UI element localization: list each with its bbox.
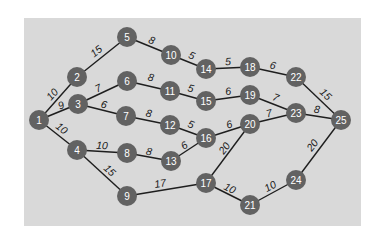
node-12: 12	[160, 115, 180, 135]
node-label: 7	[123, 111, 129, 122]
node-8: 8	[117, 143, 137, 163]
node-label: 6	[124, 76, 130, 87]
node-23: 23	[286, 103, 306, 123]
node-label: 4	[74, 145, 80, 156]
edge-weight-label: 8	[145, 145, 153, 158]
node-24: 24	[286, 170, 306, 190]
node-label: 23	[290, 108, 302, 119]
edge-weight-label: 8	[145, 107, 153, 120]
node-21: 21	[240, 195, 260, 215]
node-16: 16	[196, 128, 216, 148]
node-label: 10	[165, 50, 177, 61]
graph-canvas: 1091015761015888817555656620106771581020…	[0, 0, 380, 240]
node-6: 6	[117, 71, 137, 91]
node-9: 9	[117, 186, 137, 206]
node-label: 25	[335, 115, 347, 126]
edge-weight-label: 5	[187, 48, 197, 61]
node-label: 20	[244, 119, 256, 130]
edge-weight-label: 20	[215, 140, 232, 157]
edge-weight-label: 9	[56, 98, 66, 111]
node-label: 9	[124, 191, 130, 202]
node-13: 13	[161, 151, 181, 171]
edge-weight-label: 5	[187, 81, 196, 94]
node-label: 3	[75, 99, 81, 110]
edge-weight-label: 6	[269, 59, 277, 72]
edge-weight-label: 5	[186, 117, 196, 130]
node-14: 14	[196, 59, 216, 79]
node-5: 5	[117, 27, 137, 47]
node-20: 20	[240, 114, 260, 134]
edge-weight-label: 15	[102, 162, 119, 179]
edge-weight-label: 8	[147, 70, 156, 83]
node-label: 13	[165, 156, 177, 167]
edge-weight-label: 8	[147, 33, 157, 46]
node-15: 15	[196, 91, 216, 111]
node-label: 8	[124, 148, 130, 159]
node-11: 11	[160, 81, 180, 101]
node-label: 1	[36, 115, 42, 126]
node-label: 17	[200, 178, 212, 189]
node-label: 11	[165, 86, 176, 97]
node-label: 24	[290, 175, 302, 186]
node-label: 15	[200, 96, 212, 107]
node-2: 2	[67, 67, 87, 87]
node-label: 14	[200, 64, 212, 75]
node-17: 17	[196, 173, 216, 193]
node-label: 18	[244, 62, 256, 73]
node-19: 19	[240, 85, 260, 105]
node-label: 22	[290, 72, 302, 83]
edge-weight-label: 7	[271, 90, 282, 104]
node-4: 4	[67, 140, 87, 160]
node-label: 2	[74, 72, 80, 83]
node-18: 18	[240, 57, 260, 77]
node-25: 25	[331, 110, 351, 130]
node-7: 7	[116, 106, 136, 126]
edge-weight-label: 5	[225, 55, 232, 67]
node-label: 12	[164, 120, 176, 131]
edge-9-17	[127, 183, 206, 196]
node-1: 1	[29, 110, 49, 130]
node-label: 19	[244, 90, 256, 101]
node-label: 5	[124, 32, 130, 43]
edge-weight-label: 8	[313, 103, 321, 116]
edge-weight-label: 6	[224, 85, 232, 98]
edge-weight-label: 6	[224, 117, 233, 130]
edge-24-25	[296, 120, 341, 180]
edge-weight-label: 10	[96, 139, 109, 152]
node-label: 21	[244, 200, 256, 211]
node-22: 22	[286, 67, 306, 87]
edge-weight-label: 6	[100, 97, 109, 110]
node-10: 10	[161, 45, 181, 65]
edge-weight-label: 7	[265, 106, 275, 119]
edge-weight-label: 17	[153, 176, 168, 190]
node-label: 16	[200, 133, 212, 144]
edge-weight-label: 10	[222, 180, 238, 196]
node-3: 3	[68, 94, 88, 114]
